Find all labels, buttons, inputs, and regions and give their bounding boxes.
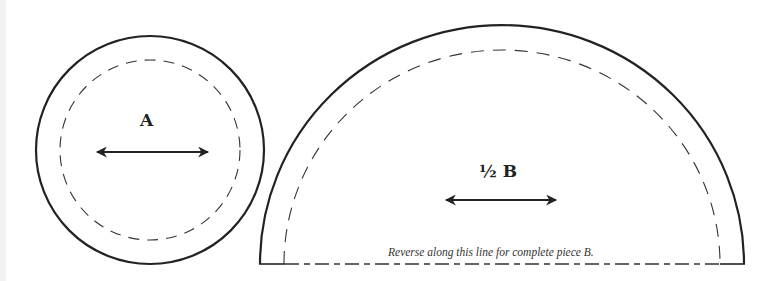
- piece-a-seam-line: [60, 60, 240, 240]
- piece-a-cut-line: [36, 36, 264, 264]
- piece-a-label: A: [140, 110, 153, 130]
- piece-b-cut-line: [260, 25, 744, 264]
- fold-instruction-note: Reverse along this line for complete pie…: [388, 246, 594, 258]
- piece-b: [259, 25, 745, 264]
- piece-b-label: ½ B: [479, 161, 517, 181]
- pattern-drawing: [0, 0, 775, 281]
- piece-b-seam-line: [284, 50, 720, 264]
- piece-a: [36, 36, 264, 264]
